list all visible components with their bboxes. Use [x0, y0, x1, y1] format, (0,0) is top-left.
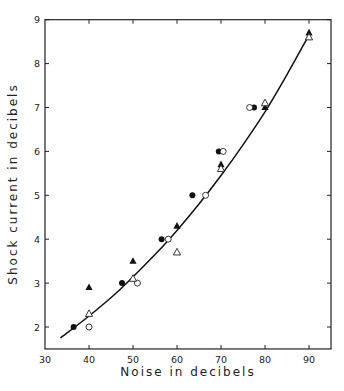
scatter-chart: 3040506070809023456789 Noise in decibels…	[0, 0, 344, 391]
open-circle-marker	[247, 105, 253, 111]
curve-line	[60, 35, 309, 338]
y-tick-label: 8	[34, 58, 40, 69]
x-axis-label: Noise in decibels	[120, 365, 255, 379]
open-circle-marker	[165, 236, 171, 242]
open-circle-marker	[86, 324, 92, 330]
y-tick-label: 3	[34, 278, 40, 289]
y-tick-label: 6	[34, 146, 40, 157]
open-triangle-marker	[173, 248, 180, 255]
data-points	[71, 29, 313, 330]
x-tick-label: 40	[83, 354, 95, 365]
filled-circle-marker	[119, 280, 125, 286]
open-triangle-marker	[261, 99, 268, 106]
y-tick-label: 7	[34, 102, 40, 113]
fitted-curve	[60, 35, 309, 338]
axes: 3040506070809023456789	[34, 14, 331, 365]
x-tick-label: 70	[215, 354, 227, 365]
open-triangle-marker	[129, 275, 136, 282]
x-tick-label: 90	[303, 354, 315, 365]
y-tick-label: 9	[34, 14, 40, 25]
x-tick-label: 30	[39, 354, 51, 365]
x-tick-label: 60	[171, 354, 183, 365]
filled-triangle-marker	[85, 283, 92, 290]
filled-triangle-marker	[129, 257, 136, 264]
open-circle-marker	[203, 192, 209, 198]
y-axis-label: Shock current in decibels	[6, 83, 20, 284]
filled-circle-marker	[159, 236, 165, 242]
x-tick-label: 50	[127, 354, 139, 365]
plot-frame	[45, 20, 331, 349]
y-tick-label: 5	[34, 190, 40, 201]
filled-triangle-marker	[173, 222, 180, 229]
open-circle-marker	[220, 148, 226, 154]
y-tick-label: 2	[34, 322, 40, 333]
y-tick-label: 4	[34, 234, 40, 245]
filled-circle-marker	[189, 192, 195, 198]
filled-circle-marker	[71, 324, 77, 330]
x-tick-label: 80	[259, 354, 271, 365]
